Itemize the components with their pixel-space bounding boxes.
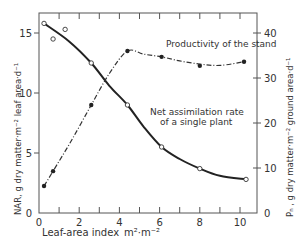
annotation-nar-line1: Net assimilation rate (150, 107, 244, 117)
x-axis-unit: m²·m⁻² (124, 227, 160, 238)
annotation-nar-line2: of a single plant (160, 117, 233, 127)
y-right-tick-label: 40 (264, 28, 277, 39)
nar-point (159, 145, 163, 149)
nar-point (42, 21, 46, 25)
y-right-tick-label: 20 (264, 118, 277, 129)
nar-point (89, 61, 93, 65)
y-right-tick-label: 10 (264, 163, 277, 174)
x-tick-label: 10 (234, 217, 247, 228)
annotation-productivity: Productivity of the stand (166, 39, 277, 49)
chart: 0246810051015010203040 Productivity of t… (0, 0, 298, 250)
y-left-tick-label: 5 (26, 148, 32, 159)
nar-point (198, 166, 202, 170)
productivity-point (242, 60, 246, 64)
y-left-tick-label: 15 (19, 28, 32, 39)
productivity-point (51, 169, 55, 173)
y-axis-left-label: NAR, g dry matter·m⁻² leaf area·d⁻¹ (13, 63, 23, 215)
productivity-point (198, 64, 202, 68)
productivity-point (42, 184, 46, 188)
x-axis-label: Leaf-area index (42, 227, 119, 238)
y-right-tick-label: 0 (264, 208, 270, 219)
x-tick-label: 8 (197, 217, 203, 228)
nar-point (125, 103, 129, 107)
productivity-point (89, 103, 93, 107)
nar-point (244, 177, 248, 181)
y-right-tick-label: 30 (264, 73, 277, 84)
nar-point (63, 27, 67, 31)
y-left-tick-label: 0 (26, 208, 32, 219)
y-axis-right-label: Pₙ , g dry matter·m⁻² ground area·d⁻¹ (285, 57, 295, 217)
productivity-point (159, 55, 163, 59)
nar-point (51, 37, 55, 41)
productivity-point (125, 49, 129, 53)
